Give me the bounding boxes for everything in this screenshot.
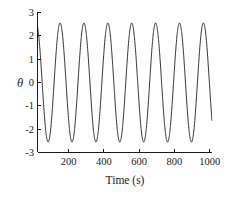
y-axis-title: θ: [17, 76, 23, 90]
y-tick-label-3: 3: [29, 7, 34, 18]
figure-background: [0, 0, 233, 197]
y-tick-label-0: 0: [29, 77, 34, 88]
y-tick-label-neg3: -3: [25, 147, 34, 158]
y-tick-label-1: 1: [29, 54, 34, 65]
y-tick-label-neg2: -2: [25, 124, 34, 135]
y-tick-label-neg1: -1: [25, 100, 34, 111]
x-tick-label-1000: 1000: [199, 156, 220, 167]
x-tick-label-200: 200: [61, 156, 77, 167]
x-tick-label-800: 800: [167, 156, 183, 167]
y-tick-label-2: 2: [29, 30, 34, 41]
x-tick-label-400: 400: [96, 156, 112, 167]
x-tick-label-600: 600: [131, 156, 147, 167]
x-axis-title: Time (s): [106, 174, 145, 187]
chart-figure: 3 2 1 0 -1 -2 -3 200 400 600 800 1000 θ …: [0, 0, 233, 197]
